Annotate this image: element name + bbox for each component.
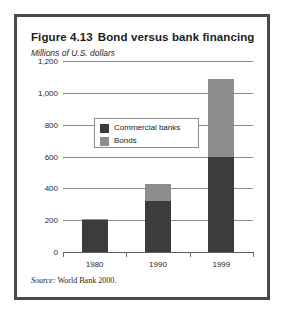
source-text: World Bank 2000. [57, 276, 116, 285]
chart-plot-area: 02004006008001,0001,200198019901999 [63, 61, 253, 252]
figure-page: Figure 4.13Bond versus bank financing Mi… [0, 0, 284, 318]
y-axis-tick-label: 1,000 [38, 88, 58, 97]
axis-baseline [63, 252, 253, 253]
y-axis-tick-label: 200 [45, 216, 58, 225]
bar-segment-commercial-banks [82, 220, 108, 252]
source-note: Source: World Bank 2000. [31, 276, 116, 285]
legend-item-commercial-banks: Commercial banks [100, 122, 194, 134]
legend-swatch-bonds [100, 137, 109, 146]
bar-segment-bonds [145, 184, 171, 202]
x-axis-tick [63, 252, 64, 257]
figure-inner: Figure 4.13Bond versus bank financing Mi… [17, 17, 267, 297]
x-axis-tick [253, 252, 254, 257]
bar-1980 [82, 219, 108, 252]
y-axis-tick-label: 600 [45, 152, 58, 161]
legend-item-bonds: Bonds [100, 135, 194, 147]
bar-segment-commercial-banks [208, 157, 234, 253]
figure-frame: Figure 4.13Bond versus bank financing Mi… [14, 14, 270, 300]
bar-segment-bonds [208, 79, 234, 157]
gridline [63, 61, 253, 62]
x-axis-tick-label: 1990 [149, 260, 167, 269]
x-axis-tick [190, 252, 191, 257]
source-label: Source: [31, 276, 56, 285]
legend-label-commercial-banks: Commercial banks [114, 124, 180, 132]
bar-1990 [145, 184, 171, 252]
x-axis-tick-label: 1999 [212, 260, 230, 269]
legend-swatch-commercial-banks [100, 124, 109, 133]
x-axis-tick-label: 1980 [86, 260, 104, 269]
bar-1999 [208, 79, 234, 252]
y-axis-tick-label: 400 [45, 184, 58, 193]
bar-segment-commercial-banks [145, 201, 171, 252]
bar-segment-bonds [82, 219, 108, 221]
y-axis-tick-label: 1,200 [38, 57, 58, 66]
x-axis-tick [126, 252, 127, 257]
y-axis-tick-label: 0 [54, 248, 58, 257]
chart-legend: Commercial banks Bonds [94, 118, 199, 148]
chart-plot-wrapper: 02004006008001,0001,200198019901999 [17, 17, 267, 303]
y-axis-tick-label: 800 [45, 120, 58, 129]
legend-label-bonds: Bonds [114, 137, 137, 145]
